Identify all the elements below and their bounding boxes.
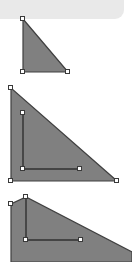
inner-vertex-handle-bottom-right[interactable] [78, 237, 83, 242]
shape-layer [0, 0, 132, 262]
vertex-handle-top[interactable] [8, 85, 13, 90]
right-triangle-small[interactable] [23, 19, 68, 72]
inner-vertex-handle-top[interactable] [20, 110, 25, 115]
inner-vertex-handle-bottom-left[interactable] [23, 237, 28, 242]
vertex-handle-left[interactable] [8, 201, 13, 206]
drawing-canvas[interactable] [0, 0, 132, 262]
vertex-handle-bottom-left[interactable] [20, 69, 25, 74]
vertex-handle-top[interactable] [20, 16, 25, 21]
vertex-handle-apex[interactable] [23, 194, 28, 199]
inner-vertex-handle-bottom-right[interactable] [77, 166, 82, 171]
inner-vertex-handle-bottom-left[interactable] [20, 166, 25, 171]
vertex-handle-bottom-right[interactable] [65, 69, 70, 74]
vertex-handle-bottom-left[interactable] [8, 178, 13, 183]
right-triangle-editing[interactable] [11, 197, 132, 262]
vertex-handle-bottom-right[interactable] [114, 178, 119, 183]
shapes-vector-layer [0, 0, 132, 262]
right-triangle-large-with-inner[interactable] [11, 88, 117, 181]
